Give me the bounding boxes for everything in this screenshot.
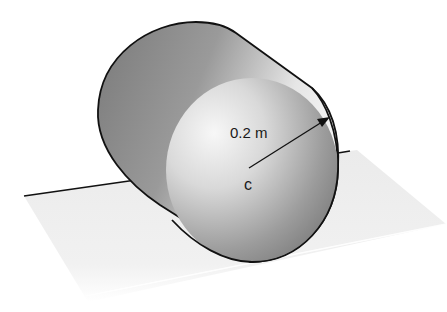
center-label: c [244,176,252,193]
radius-label: 0.2 m [230,124,268,141]
cylinder-diagram: 0.2 m c [0,0,447,312]
diagram-canvas: 0.2 m c [0,0,447,312]
